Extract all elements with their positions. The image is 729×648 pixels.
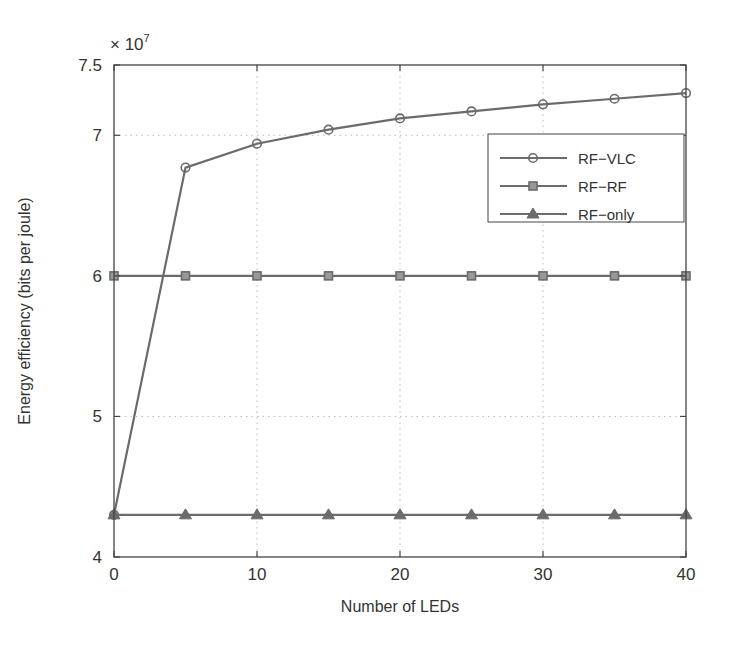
x-tick-label: 10 <box>248 565 267 584</box>
legend-label: RF−only <box>578 206 635 223</box>
series-square <box>110 272 690 280</box>
square-marker-icon <box>253 272 261 280</box>
y-tick-label: 7 <box>93 126 102 145</box>
square-marker-icon <box>611 272 619 280</box>
y-axis-tick-labels: 45677.5 <box>78 56 102 567</box>
square-marker-icon <box>529 182 537 190</box>
chart: 010203040 45677.5 × 107 Number of LEDs E… <box>0 0 729 648</box>
square-marker-icon <box>396 272 404 280</box>
x-tick-label: 0 <box>109 565 118 584</box>
x-tick-label: 40 <box>677 565 696 584</box>
legend: RF−VLCRF−RFRF−only <box>488 134 684 223</box>
series-triangle <box>108 509 692 519</box>
square-marker-icon <box>325 272 333 280</box>
x-axis-label: Number of LEDs <box>341 598 459 615</box>
legend-label: RF−RF <box>578 178 627 195</box>
y-axis-label: Energy efficiency (bits per joule) <box>16 197 33 424</box>
square-marker-icon <box>539 272 547 280</box>
x-tick-label: 30 <box>534 565 553 584</box>
x-axis-tick-labels: 010203040 <box>109 565 695 584</box>
y-tick-label: 7.5 <box>78 56 102 75</box>
legend-label: RF−VLC <box>578 150 636 167</box>
y-tick-label: 4 <box>93 548 102 567</box>
square-marker-icon <box>468 272 476 280</box>
square-marker-icon <box>182 272 190 280</box>
y-tick-label: 5 <box>93 407 102 426</box>
y-multiplier-exponent: 7 <box>144 32 150 44</box>
x-tick-label: 20 <box>391 565 410 584</box>
y-multiplier: × 107 <box>110 32 150 54</box>
y-tick-label: 6 <box>93 267 102 286</box>
